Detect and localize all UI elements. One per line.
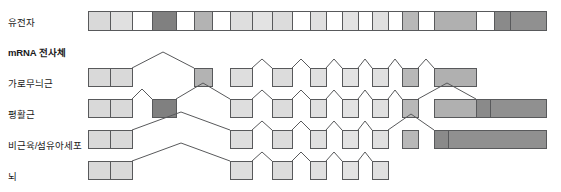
gene-segment: [495, 12, 511, 31]
splice-junction: [132, 143, 230, 161]
gene-segment: [359, 12, 373, 31]
gene-segment: [389, 12, 403, 31]
splicing-figure: 유전자mRNA 전사체가로무늬근평활근비근육/섬유아세포뇌: [0, 0, 561, 192]
splice-junction: [252, 59, 272, 68]
transcript-track-1: [89, 83, 547, 118]
exon-box: [491, 100, 547, 118]
exon-box: [373, 100, 389, 118]
exon-box: [111, 131, 133, 149]
splice-junction: [358, 152, 372, 161]
gene-segment: [373, 12, 389, 31]
splice-junction: [326, 121, 342, 130]
gene-segment: [311, 12, 327, 31]
splice-junction: [388, 59, 402, 68]
exon-box: [273, 162, 293, 180]
exon-box: [373, 162, 389, 180]
exon-box: [89, 69, 111, 87]
exon-box: [273, 69, 293, 87]
gene-segment: [213, 12, 231, 31]
gene-segment: [327, 12, 343, 31]
splice-junction: [132, 52, 194, 68]
splicing-diagram: [0, 0, 561, 192]
exon-box: [311, 69, 327, 87]
gene-segment: [111, 12, 133, 31]
splice-junction: [358, 121, 372, 130]
exon-box: [373, 131, 389, 149]
exon-box: [403, 69, 419, 87]
exon-box: [231, 131, 253, 149]
exon-box: [231, 69, 253, 87]
splice-junction: [326, 59, 342, 68]
splice-junction: [252, 121, 272, 130]
splice-junction: [292, 121, 310, 130]
exon-box: [111, 162, 133, 180]
exon-box: [373, 69, 389, 87]
exon-box: [449, 131, 547, 149]
gene-segment: [253, 12, 273, 31]
splice-junction: [326, 90, 342, 99]
exon-box: [111, 69, 133, 87]
gene-segment: [403, 12, 419, 31]
splice-junction: [252, 90, 272, 99]
splice-junction: [132, 89, 152, 99]
gene-segment: [177, 12, 195, 31]
gene-segment: [477, 12, 495, 31]
exon-box: [311, 162, 327, 180]
gene-segment: [511, 12, 547, 31]
gene-segment: [133, 12, 153, 31]
splice-junction: [292, 90, 310, 99]
exon-box: [89, 100, 111, 118]
splice-junction: [252, 152, 272, 161]
exon-box: [343, 69, 359, 87]
exon-box: [435, 131, 449, 149]
exon-box: [343, 131, 359, 149]
exon-box: [435, 100, 477, 118]
exon-box: [231, 100, 253, 118]
exon-box: [343, 100, 359, 118]
gene-segment: [435, 12, 477, 31]
gene-segment: [273, 12, 293, 31]
splice-junction: [292, 59, 310, 68]
gene-segment: [293, 12, 311, 31]
gene-segment: [343, 12, 359, 31]
exon-box: [311, 100, 327, 118]
splice-junction: [132, 112, 230, 130]
exon-box: [273, 131, 293, 149]
exon-box: [273, 100, 293, 118]
exon-box: [403, 131, 419, 149]
exon-box: [311, 131, 327, 149]
splice-junction: [418, 59, 434, 68]
splice-junction: [358, 90, 372, 99]
gene-segment: [231, 12, 253, 31]
exon-box: [111, 100, 133, 118]
exon-box: [89, 131, 111, 149]
exon-box: [477, 100, 491, 118]
gene-segment: [89, 12, 111, 31]
splice-junction: [358, 59, 372, 68]
gene-segment: [195, 12, 213, 31]
splice-junction: [292, 152, 310, 161]
gene-segment: [419, 12, 435, 31]
gene-track: [89, 12, 547, 31]
transcript-track-0: [89, 52, 477, 87]
exon-box: [231, 162, 253, 180]
exon-box: [435, 69, 477, 87]
gene-segment: [153, 12, 177, 31]
splice-junction: [326, 152, 342, 161]
exon-box: [89, 162, 111, 180]
splice-junction: [388, 90, 402, 99]
exon-box: [343, 162, 359, 180]
